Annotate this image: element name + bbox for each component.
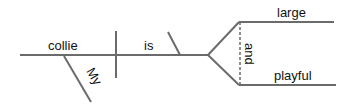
predicate-slash <box>168 32 180 55</box>
word-my: My <box>83 65 105 88</box>
word-collie: collie <box>48 38 78 53</box>
fork-upper <box>208 22 239 55</box>
modifier-line-my <box>64 56 91 102</box>
word-playful: playful <box>274 68 312 83</box>
word-is: is <box>144 38 154 53</box>
sentence-diagram: collie is large playful and My <box>0 0 352 109</box>
fork-lower <box>208 55 239 85</box>
word-and: and <box>242 43 257 65</box>
word-large: large <box>277 5 306 20</box>
